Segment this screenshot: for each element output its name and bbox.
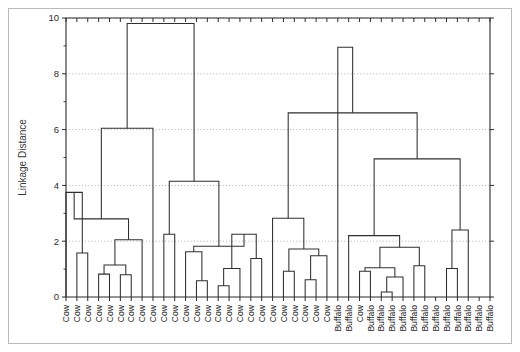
dendrogram-link: [164, 234, 175, 297]
leaf-label: Cow: [279, 304, 289, 322]
leaf-label: Buffalo: [463, 305, 473, 332]
y-tick-label: 6: [54, 124, 59, 135]
leaf-label: Cow: [126, 304, 136, 322]
dendrogram-link: [311, 256, 327, 297]
y-tick-label: 8: [54, 68, 59, 79]
dendrogram-link: [283, 271, 294, 297]
leaf-label: Buffalo: [420, 305, 430, 332]
leaf-label: Cow: [83, 304, 93, 322]
dendrogram-link: [218, 286, 229, 297]
leaf-label: Cow: [246, 304, 256, 322]
dendrogram-link: [452, 230, 468, 297]
leaf-label: Buffalo: [398, 305, 408, 332]
dendrogram-link: [365, 268, 395, 277]
leaf-label: Buffalo: [431, 305, 441, 332]
leaf-label: Buffalo: [376, 305, 386, 332]
y-tick-label: 0: [54, 291, 59, 302]
leaf-label: Cow: [116, 304, 126, 322]
dendrogram-link: [186, 252, 202, 297]
dendrogram-link: [273, 218, 304, 297]
leaf-label: Cow: [290, 304, 300, 322]
dendrogram-link: [127, 24, 194, 182]
dendrogram-link: [77, 253, 88, 297]
dendrogram-link: [104, 265, 126, 275]
dendrogram-link: [101, 128, 153, 297]
leaf-label: Cow: [322, 304, 332, 322]
leaf-label: Cow: [257, 304, 267, 322]
leaf-label: Cow: [94, 304, 104, 322]
dendrogram-link: [289, 249, 319, 271]
leaf-label: Buffalo: [333, 305, 343, 332]
leaf-label: Buffalo: [344, 305, 354, 332]
leaf-label: Buffalo: [409, 305, 419, 332]
dendrogram-link: [381, 292, 392, 297]
dendrogram-link: [169, 181, 219, 246]
leaf-label: Cow: [192, 304, 202, 322]
leaf-label: Cow: [181, 304, 191, 322]
leaf-label: Buffalo: [442, 305, 452, 332]
dendrogram-link: [305, 280, 316, 297]
leaf-label: Cow: [235, 304, 245, 322]
leaf-label: Buffalo: [366, 305, 376, 332]
dendrogram-link: [224, 269, 240, 297]
dendrogram-figure: 0246810Linkage DistanceCowCowCowCowCowCo…: [0, 0, 520, 352]
dendrogram-link: [349, 236, 400, 297]
dendrogram-link: [99, 274, 110, 297]
dendrogram-link: [120, 275, 131, 297]
y-axis-title: Linkage Distance: [17, 119, 28, 196]
leaf-label: Cow: [203, 304, 213, 322]
leaf-label: Cow: [355, 304, 365, 322]
dendrogram-link: [414, 266, 425, 297]
leaf-label: Cow: [159, 304, 169, 322]
leaf-label: Cow: [170, 304, 180, 322]
leaf-label: Buffalo: [485, 305, 495, 332]
leaf-label: Buffalo: [453, 305, 463, 332]
leaf-label: Cow: [224, 304, 234, 322]
dendrogram-link: [288, 113, 417, 218]
dendrogram-link: [380, 247, 419, 267]
leaf-label: Cow: [311, 304, 321, 322]
dendrogram-link: [251, 258, 262, 297]
leaf-label: Cow: [148, 304, 158, 322]
leaf-label: Cow: [213, 304, 223, 322]
y-tick-label: 10: [48, 12, 59, 23]
dendrogram-link: [447, 269, 458, 297]
dendrogram-link: [115, 240, 142, 297]
leaf-label: Cow: [72, 304, 82, 322]
dendrogram-link: [196, 281, 207, 297]
dendrogram-link: [338, 47, 353, 297]
dendrogram-link: [360, 271, 371, 297]
leaf-label: Cow: [61, 304, 71, 322]
axis-frame: [66, 18, 490, 297]
leaf-label: Buffalo: [474, 305, 484, 332]
leaf-label: Cow: [268, 304, 278, 322]
y-tick-label: 2: [54, 236, 59, 247]
dendrogram-plot: 0246810Linkage DistanceCowCowCowCowCowCo…: [0, 0, 520, 352]
y-tick-label: 4: [54, 180, 59, 191]
leaf-label: Cow: [300, 304, 310, 322]
leaf-label: Cow: [137, 304, 147, 322]
leaf-label: Buffalo: [387, 305, 397, 332]
leaf-label: Cow: [105, 304, 115, 322]
dendrogram-link: [387, 277, 403, 297]
dendrogram-link: [374, 159, 460, 236]
